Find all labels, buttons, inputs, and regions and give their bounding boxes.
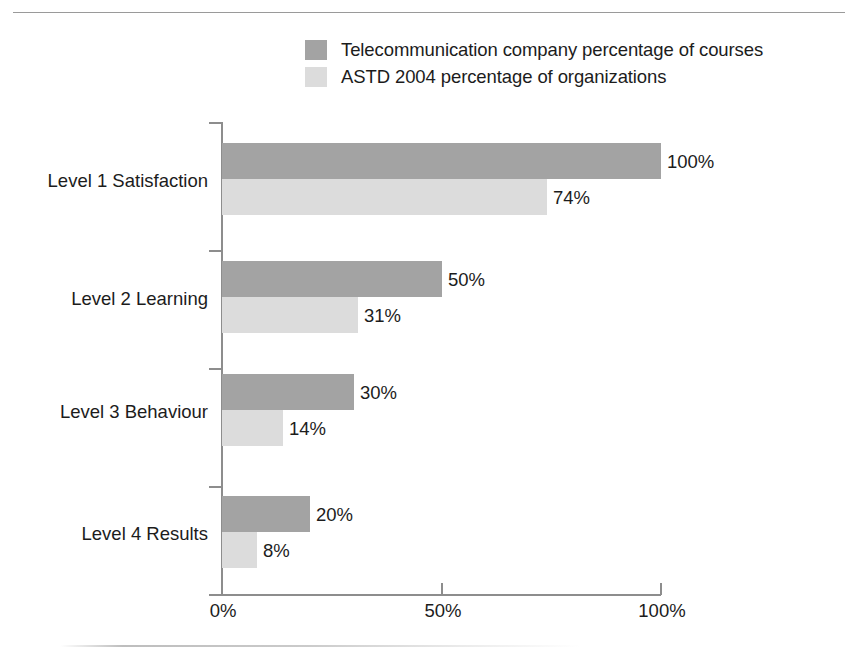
bar-light-level1 bbox=[222, 179, 547, 215]
category-label-level4: Level 4 Results bbox=[8, 525, 208, 544]
x-axis-tick bbox=[660, 583, 662, 595]
category-label-level1: Level 1 Satisfaction bbox=[8, 172, 208, 191]
bar-value-light-level3: 14% bbox=[289, 420, 326, 439]
y-axis-tick bbox=[209, 250, 222, 252]
bar-chart-plot-area: 0% 50% 100% 100% 74% Level 1 Satisfactio… bbox=[0, 0, 851, 653]
bar-dark-level3 bbox=[222, 374, 354, 410]
bar-value-dark-level1: 100% bbox=[667, 153, 714, 172]
y-axis-tick bbox=[209, 368, 222, 370]
x-axis-label-0: 0% bbox=[210, 600, 237, 622]
y-axis-tick bbox=[209, 486, 222, 488]
bar-value-light-level1: 74% bbox=[553, 189, 590, 208]
scan-artifact bbox=[60, 645, 580, 647]
category-label-level3: Level 3 Behaviour bbox=[8, 403, 208, 422]
bar-value-dark-level3: 30% bbox=[360, 384, 397, 403]
bar-dark-level1 bbox=[222, 143, 661, 179]
bar-dark-level2 bbox=[222, 261, 442, 297]
bar-light-level2 bbox=[222, 297, 358, 333]
bar-value-dark-level4: 20% bbox=[316, 506, 353, 525]
bar-light-level3 bbox=[222, 410, 283, 446]
bar-value-dark-level2: 50% bbox=[448, 271, 485, 290]
category-label-level2: Level 2 Learning bbox=[8, 290, 208, 309]
x-axis-label-50: 50% bbox=[424, 600, 461, 622]
x-axis-label-100: 100% bbox=[638, 600, 685, 622]
y-axis-tick bbox=[209, 122, 222, 124]
x-axis-tick bbox=[221, 583, 223, 595]
bar-value-light-level2: 31% bbox=[364, 307, 401, 326]
bar-value-light-level4: 8% bbox=[263, 542, 290, 561]
x-axis-tick bbox=[441, 583, 443, 595]
bar-light-level4 bbox=[222, 532, 257, 568]
bar-dark-level4 bbox=[222, 496, 310, 532]
